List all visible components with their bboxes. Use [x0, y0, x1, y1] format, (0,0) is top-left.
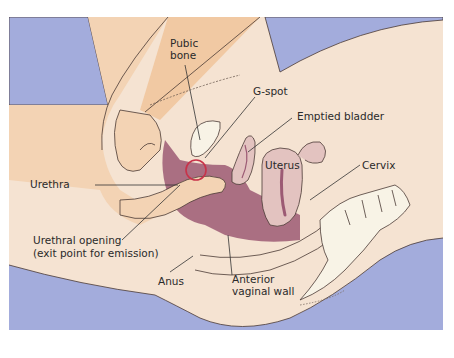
- label-g-spot: G-spot: [253, 85, 288, 97]
- label-pubic-bone: Pubicbone: [170, 37, 198, 61]
- label-cervix: Cervix: [362, 159, 395, 171]
- anatomy-diagram: Pubicbone G-spot Emptied bladder Uterus …: [9, 17, 443, 330]
- label-anus: Anus: [158, 275, 184, 287]
- label-urethra: Urethra: [30, 178, 70, 190]
- label-emptied-bladder: Emptied bladder: [297, 110, 385, 122]
- label-uterus: Uterus: [265, 159, 300, 171]
